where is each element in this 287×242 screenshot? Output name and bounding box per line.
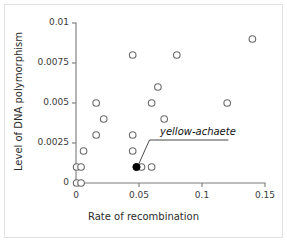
plot-canvas: [0, 0, 287, 242]
y-axis-title: Level of DNA polymorphism: [13, 22, 24, 182]
data-point: [129, 148, 136, 155]
data-point: [129, 132, 136, 139]
data-point: [155, 84, 162, 91]
data-point: [78, 180, 85, 187]
data-point: [93, 100, 100, 107]
data-point: [80, 148, 87, 155]
data-point: [224, 100, 231, 107]
x-tick-label: 0.15: [240, 190, 287, 200]
y-tick-label: 0.005: [20, 97, 69, 107]
leader-line: [139, 140, 228, 164]
y-tick-label: 0: [20, 177, 69, 187]
data-point: [129, 52, 136, 59]
axes-group: [72, 23, 265, 187]
data-point: [249, 36, 256, 43]
data-point-highlighted: [133, 163, 140, 170]
y-tick-label: 0.0075: [20, 57, 69, 67]
x-axis-title: Rate of recombination: [0, 211, 287, 222]
data-point: [100, 116, 107, 123]
y-tick-label: 0.0025: [20, 137, 69, 147]
data-markers-group: [73, 36, 255, 187]
y-tick-label: 0.01: [20, 17, 69, 27]
data-point: [148, 100, 155, 107]
x-tick-label: 0.1: [177, 190, 227, 200]
x-tick-label: 0: [51, 190, 101, 200]
data-point: [93, 132, 100, 139]
data-point: [148, 164, 155, 171]
annotation-yellow-achaete: yellow-achaete: [160, 126, 236, 137]
scatter-plot-figure: 00.00250.0050.00750.01 00.050.10.15 Rate…: [0, 0, 287, 242]
data-point: [174, 52, 181, 59]
annotation-leader-line: [139, 140, 228, 164]
data-point: [161, 116, 168, 123]
data-point: [78, 164, 85, 171]
x-tick-label: 0.05: [114, 190, 164, 200]
